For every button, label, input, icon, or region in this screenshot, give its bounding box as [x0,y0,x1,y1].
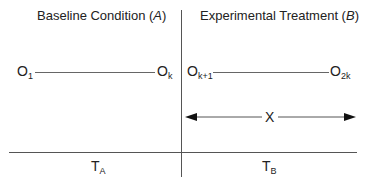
span-label: X [265,109,274,125]
time-base: T [262,158,271,174]
time-label-b: TB [262,158,277,176]
time-label-a: TA [91,158,106,176]
time-sub: B [271,166,277,176]
arrow-right-icon [344,113,356,121]
time-base: T [91,158,100,174]
time-sub: A [100,166,106,176]
arrow-left-icon [185,113,197,121]
span-arrow [0,0,370,184]
